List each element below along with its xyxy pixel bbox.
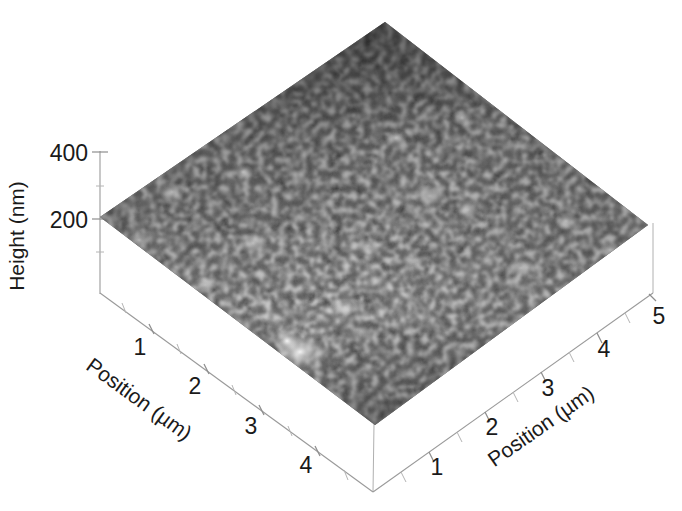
x-tick-label-1: 1	[134, 334, 147, 360]
y-tick-label-1: 1	[431, 454, 444, 480]
y-tick-label-4: 4	[598, 336, 611, 362]
x-tick-label-2: 2	[189, 373, 202, 399]
afm-surface-mesh	[90, 10, 660, 440]
x-tick-label-3: 3	[245, 413, 258, 439]
front-drop-edge	[373, 424, 374, 492]
y-tick-label-5: 5	[653, 303, 666, 329]
x-tick-label-4: 4	[300, 452, 313, 478]
plot-canvas: 400 200 Height (nm) 1 2 3 4 Position (µm…	[0, 0, 682, 511]
x-axis-title: Position (µm)	[82, 353, 196, 445]
y-tick-label-2: 2	[486, 414, 499, 440]
z-axis-title: Height (nm)	[5, 181, 28, 291]
y-tick-label-3: 3	[542, 375, 555, 401]
z-tick-label-400: 400	[50, 140, 88, 166]
z-tick-label-200: 200	[50, 207, 88, 233]
afm-surface-figure: 400 200 Height (nm) 1 2 3 4 Position (µm…	[0, 0, 682, 511]
z-axis	[92, 151, 108, 294]
